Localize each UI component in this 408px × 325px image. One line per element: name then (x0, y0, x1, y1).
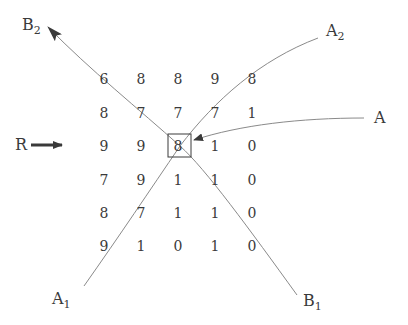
grid-cell: 0 (242, 172, 262, 188)
grid-cell: 7 (168, 105, 188, 121)
label-a2-main: A (326, 21, 338, 40)
grid-cell: 1 (205, 138, 225, 154)
line-b1-b2 (48, 27, 297, 295)
grid-cell: 1 (131, 238, 151, 254)
label-r: R (15, 136, 27, 154)
grid-cell: 1 (168, 172, 188, 188)
label-a2: A2 (326, 22, 345, 46)
label-a1: A1 (52, 290, 71, 314)
label-b2-main: B (22, 15, 34, 34)
grid-cell: 8 (94, 205, 114, 221)
grid-cell: 1 (205, 205, 225, 221)
grid-cell: 1 (205, 172, 225, 188)
grid-cell: 9 (94, 138, 114, 154)
grid-cell: 9 (131, 138, 151, 154)
grid-cell: 0 (168, 238, 188, 254)
label-a1-sub: 1 (64, 298, 71, 311)
label-b2: B2 (22, 16, 41, 40)
grid-cell: 9 (94, 238, 114, 254)
label-a1-main: A (52, 289, 64, 308)
grid-cell: 7 (205, 105, 225, 121)
label-a: A (374, 109, 386, 127)
grid-cell: 6 (94, 71, 114, 87)
label-b2-sub: 2 (34, 24, 41, 37)
grid-cell: 9 (131, 172, 151, 188)
grid-cell: 7 (131, 105, 151, 121)
label-a2-sub: 2 (338, 30, 345, 43)
grid-cell: 0 (242, 205, 262, 221)
label-b1-main: B (303, 291, 315, 310)
grid-cell: 1 (205, 238, 225, 254)
label-b1: B1 (303, 292, 322, 316)
grid-cell: 8 (168, 71, 188, 87)
grid-cell: 7 (94, 172, 114, 188)
grid-cell: 8 (94, 105, 114, 121)
grid-cell: 0 (242, 238, 262, 254)
label-a-main: A (374, 108, 386, 127)
grid-cell: 8 (131, 71, 151, 87)
diagram-canvas (0, 0, 408, 325)
grid-cell: 1 (168, 205, 188, 221)
line-a1-a2 (84, 38, 318, 286)
grid-cell: 0 (242, 138, 262, 154)
grid-cell: 1 (242, 105, 262, 121)
line-a-to-center (194, 118, 364, 140)
label-b1-sub: 1 (315, 300, 322, 313)
grid-cell: 7 (131, 205, 151, 221)
grid-cell: 9 (205, 71, 225, 87)
grid-cell: 8 (242, 71, 262, 87)
label-r-main: R (15, 135, 27, 154)
grid-cell: 8 (168, 138, 188, 154)
